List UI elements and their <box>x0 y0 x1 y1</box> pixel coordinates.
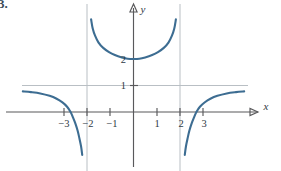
y-tick-label-1: 1 <box>121 80 126 91</box>
tick-label-group: −3 −2 −1 1 2 3 1 2 <box>58 54 206 129</box>
curve-right-branch <box>185 91 244 155</box>
x-tick-label-2: 2 <box>178 118 183 129</box>
asymptote-group <box>22 4 248 171</box>
x-tick-label--2: −2 <box>82 118 93 129</box>
y-axis-label: y <box>140 3 146 15</box>
coordinate-plot: −3 −2 −1 1 2 3 1 2 x y <box>0 0 281 171</box>
x-tick-label-3: 3 <box>201 118 206 129</box>
x-axis-label: x <box>263 100 269 112</box>
graph-figure: −3 −2 −1 1 2 3 1 2 x y <box>0 0 281 171</box>
curve-left-branch <box>23 91 82 155</box>
x-tick-label-1: 1 <box>154 118 159 129</box>
y-tick-label-2: 2 <box>121 54 126 65</box>
x-tick-label--3: −3 <box>58 118 69 129</box>
x-tick-label--1: −1 <box>106 118 117 129</box>
